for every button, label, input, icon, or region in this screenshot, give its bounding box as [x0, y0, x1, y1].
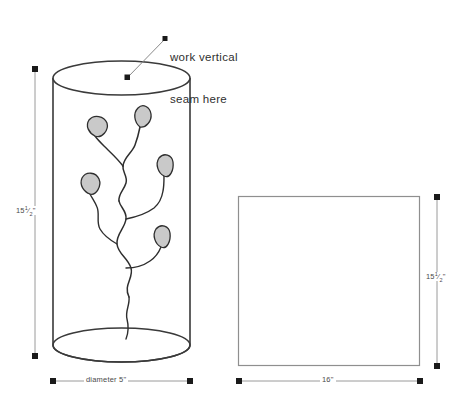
- square-dot-marker-seam-point: [125, 75, 131, 81]
- panel-height-whole: 15: [426, 272, 435, 281]
- square-endpoint-marker-panel-left: [236, 378, 242, 384]
- square-endpoint-marker-left: [50, 378, 56, 384]
- square-endpoint-marker-panel-top: [434, 194, 440, 200]
- square-endpoint-marker-bottom: [32, 353, 38, 359]
- panel-height-unit: ": [443, 272, 446, 281]
- cylinder-height-label: 151⁄2": [14, 206, 38, 215]
- square-endpoint-marker-right: [187, 378, 193, 384]
- panel-height-label: 151⁄2": [424, 272, 448, 281]
- square-endpoint-marker-panel-bottom: [434, 363, 440, 369]
- seam-callout-text: work vertical seam here: [170, 22, 310, 134]
- cylinder-diameter-label: diameter 5": [84, 375, 128, 384]
- cyl-height-unit: ": [33, 206, 36, 215]
- square-dot-marker-text-end: [163, 36, 168, 41]
- callout-line-1: work vertical: [170, 50, 310, 64]
- panel-width-label: 16": [320, 375, 336, 384]
- pattern-diagram: work vertical seam here 151⁄2" diameter …: [0, 0, 472, 409]
- cyl-height-numerator: 1: [25, 205, 28, 211]
- square-endpoint-marker-top: [32, 66, 38, 72]
- flat-rectangular-panel: [239, 197, 420, 366]
- callout-line-2: seam here: [170, 92, 310, 106]
- panel-height-numerator: 1: [435, 271, 438, 277]
- square-endpoint-marker-panel-right: [417, 378, 423, 384]
- cyl-height-whole: 15: [16, 206, 25, 215]
